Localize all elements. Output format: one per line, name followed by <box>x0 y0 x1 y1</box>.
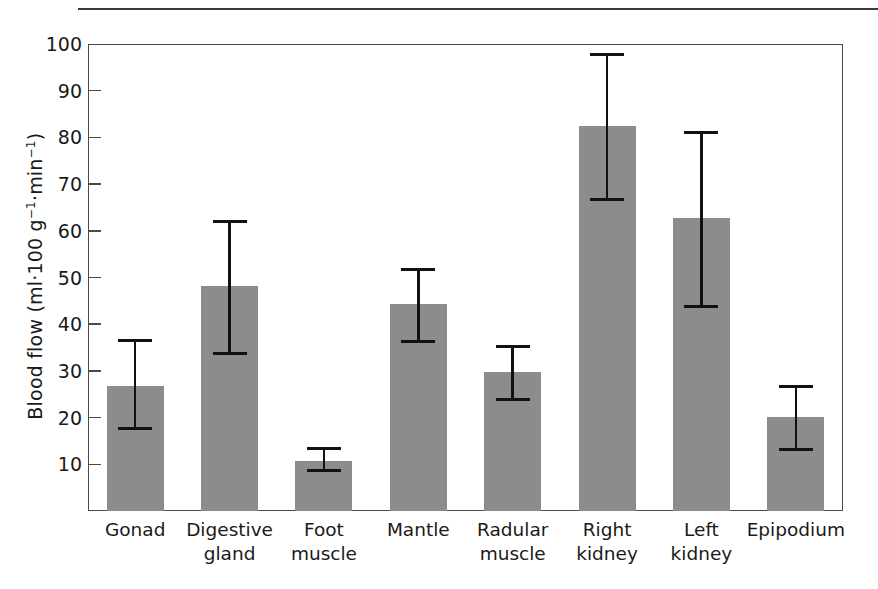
y-axis-tick-mark <box>88 370 101 372</box>
y-axis-tick-label: 70 <box>36 173 82 195</box>
y-axis-tick-label: 40 <box>36 313 82 335</box>
x-axis-category-label: Radularmuscle <box>460 518 566 566</box>
x-axis-category-label: Footmuscle <box>271 518 377 566</box>
x-axis-category-label-line1: Left <box>684 519 719 540</box>
x-axis-category-label-line1: Digestive <box>186 519 273 540</box>
bars-layer <box>88 44 843 511</box>
y-axis-tick-mark <box>88 464 101 466</box>
error-bar-cap-upper <box>496 345 530 348</box>
y-axis-tick-mark <box>88 137 101 139</box>
x-axis-category-label-line1: Gonad <box>105 519 165 540</box>
x-axis-category-label: Rightkidney <box>554 518 660 566</box>
y-axis-tick-mark <box>88 230 101 232</box>
top-rule-divider <box>78 8 878 10</box>
error-bar-cap-upper <box>307 447 341 450</box>
x-axis-category-label: Digestivegland <box>176 518 282 566</box>
error-bar-cap-lower <box>684 305 718 308</box>
error-bar-cap-upper <box>779 385 813 388</box>
error-bar-line <box>606 54 609 199</box>
y-axis-tick-mark <box>88 323 101 325</box>
x-axis-category-label: Mantle <box>365 518 471 542</box>
y-axis-tick-labels: 102030405060708090100 <box>32 0 82 589</box>
error-bar-cap-lower <box>590 198 624 201</box>
error-bar-line <box>323 449 326 471</box>
error-bar-cap-upper <box>401 268 435 271</box>
y-axis-tick-label: 90 <box>36 80 82 102</box>
y-axis-tick-label: 30 <box>36 360 82 382</box>
error-bar-cap-lower <box>779 448 813 451</box>
x-axis-category-label-line1: Mantle <box>387 519 450 540</box>
y-axis-tick-mark <box>88 417 101 419</box>
x-axis-category-label: Epipodium <box>743 518 849 542</box>
error-bar-cap-upper <box>213 220 247 223</box>
x-axis-category-label-line1: Radular <box>477 519 548 540</box>
error-bar-line <box>795 387 798 450</box>
error-bar-cap-lower <box>401 340 435 343</box>
x-axis-category-label-line2: muscle <box>271 542 377 566</box>
error-bar-cap-lower <box>307 469 341 472</box>
x-axis-category-label-line1: Right <box>583 519 632 540</box>
error-bar-line <box>700 133 703 307</box>
x-axis-category-label-line2: gland <box>176 542 282 566</box>
x-axis-category-labels: GonadDigestiveglandFootmuscleMantleRadul… <box>88 518 843 582</box>
y-axis-tick-mark <box>88 277 101 279</box>
error-bar-line <box>228 221 231 353</box>
error-bar-cap-lower <box>118 427 152 430</box>
error-bar-cap-lower <box>496 398 530 401</box>
x-axis-category-label-line2: kidney <box>648 542 754 566</box>
y-axis-tick-label: 80 <box>36 126 82 148</box>
error-bar-line <box>134 340 137 429</box>
error-bar-cap-upper <box>684 131 718 134</box>
error-bar-line <box>417 269 420 341</box>
y-axis-tick-label: 60 <box>36 220 82 242</box>
x-axis-category-label: Gonad <box>82 518 188 542</box>
error-bar-cap-upper <box>118 339 152 342</box>
y-axis-tick-mark <box>88 90 101 92</box>
y-axis-tick-label: 10 <box>36 453 82 475</box>
x-axis-category-label: Leftkidney <box>648 518 754 566</box>
y-axis-tick-label: 20 <box>36 407 82 429</box>
x-axis-category-label-line2: kidney <box>554 542 660 566</box>
x-axis-category-label-line1: Foot <box>304 519 344 540</box>
y-axis-tick-label: 100 <box>36 33 82 55</box>
y-axis-tick-mark <box>88 183 101 185</box>
y-axis-tick-label: 50 <box>36 267 82 289</box>
error-bar-cap-upper <box>590 53 624 56</box>
x-axis-category-label-line2: muscle <box>460 542 566 566</box>
error-bar-cap-lower <box>213 352 247 355</box>
error-bar-line <box>511 347 514 400</box>
figure-container: Blood flow (ml·100 g−1·min−1) 1020304050… <box>0 0 878 589</box>
x-axis-category-label-line1: Epipodium <box>747 519 845 540</box>
